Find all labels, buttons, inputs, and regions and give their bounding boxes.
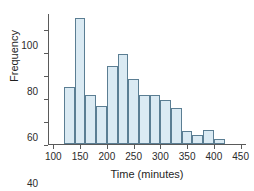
- histogram-bar: [107, 66, 118, 144]
- histogram-figure: 020406080100 100150200250300350400450 Fr…: [0, 0, 254, 191]
- y-tick-40: 40: [44, 99, 48, 100]
- y-tick-80: 80: [44, 53, 48, 54]
- histogram-bar: [118, 54, 129, 144]
- x-axis-line: [48, 144, 246, 145]
- histogram-bar: [96, 106, 107, 144]
- y-tick-60: 60: [44, 76, 48, 77]
- histogram-bar: [150, 95, 161, 144]
- x-tick-450: [241, 145, 242, 149]
- y-axis-line: [48, 14, 49, 145]
- y-tick-label-80: 80: [27, 87, 38, 97]
- histogram-bar: [160, 100, 171, 144]
- x-tick-label-250: 250: [125, 152, 142, 162]
- histogram-bar: [139, 95, 150, 144]
- histogram-bar: [64, 87, 75, 144]
- x-tick-400: [214, 145, 215, 149]
- plot-area: 020406080100 100150200250300350400450: [48, 14, 246, 145]
- y-axis-title: Frequency: [8, 16, 20, 96]
- x-tick-label-350: 350: [179, 152, 196, 162]
- histogram-bar: [171, 108, 182, 144]
- x-tick-300: [160, 145, 161, 149]
- x-tick-label-150: 150: [72, 152, 89, 162]
- histogram-bar: [203, 130, 214, 144]
- x-tick-250: [134, 145, 135, 149]
- histogram-bar: [85, 95, 96, 144]
- x-axis-title: Time (minutes): [48, 168, 246, 180]
- y-tick-label-40: 40: [27, 179, 38, 189]
- x-tick-150: [80, 145, 81, 149]
- x-tick-label-300: 300: [152, 152, 169, 162]
- x-tick-label-100: 100: [45, 152, 62, 162]
- histogram-bar: [214, 139, 225, 144]
- x-tick-label-200: 200: [99, 152, 116, 162]
- y-tick-label-60: 60: [27, 133, 38, 143]
- histogram-bar: [192, 135, 203, 144]
- histogram-bar: [182, 131, 193, 144]
- y-tick-100: 100: [44, 30, 48, 31]
- histogram-bar: [75, 18, 86, 144]
- histogram-bar: [128, 79, 139, 145]
- x-tick-200: [107, 145, 108, 149]
- y-tick-20: 20: [44, 122, 48, 123]
- y-tick-label-100: 100: [21, 41, 38, 51]
- x-tick-label-450: 450: [232, 152, 249, 162]
- x-tick-350: [187, 145, 188, 149]
- y-tick-0: 0: [44, 145, 48, 146]
- x-tick-label-400: 400: [206, 152, 223, 162]
- x-tick-100: [53, 145, 54, 149]
